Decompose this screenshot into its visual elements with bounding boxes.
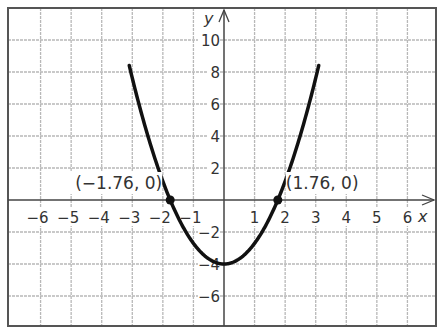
y-tick-label: 2 <box>210 160 220 178</box>
intercept-dot <box>273 196 282 205</box>
y-tick-label: −6 <box>198 288 220 306</box>
y-tick-label: −2 <box>198 224 220 242</box>
x-tick-label: 2 <box>280 209 290 227</box>
parabola-graph: −6−5−4−3−2−1123456−6−4−2246810 (−1.76, 0… <box>0 0 442 334</box>
y-tick-label: 4 <box>210 128 220 146</box>
x-axis-label: x <box>417 207 428 226</box>
x-tick-label: 5 <box>372 209 382 227</box>
intercept-dot <box>166 196 175 205</box>
y-tick-label: 10 <box>201 32 220 50</box>
x-tick-label: −3 <box>118 209 140 227</box>
y-tick-label: 6 <box>210 96 220 114</box>
x-tick-label: −5 <box>57 209 79 227</box>
x-tick-label: 6 <box>403 209 413 227</box>
x-tick-label: 3 <box>311 209 321 227</box>
x-tick-label: −2 <box>149 209 171 227</box>
y-tick-label: 8 <box>210 64 220 82</box>
y-axis-label: y <box>203 9 214 28</box>
x-tick-label: 4 <box>342 209 352 227</box>
left-intercept-label: (−1.76, 0) <box>75 173 162 193</box>
x-tick-label: −4 <box>88 209 110 227</box>
x-tick-label: 1 <box>250 209 260 227</box>
x-tick-label: −6 <box>27 209 49 227</box>
right-intercept-label: (1.76, 0) <box>286 173 359 193</box>
